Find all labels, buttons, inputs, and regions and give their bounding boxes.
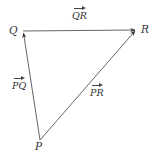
vector-label-qr: QR <box>72 6 87 21</box>
vertex-label-q: Q <box>9 25 18 36</box>
vector-arrow-icon <box>90 83 104 88</box>
vector-pr-arrow <box>40 31 135 140</box>
vector-label-pq: PQ <box>12 76 26 91</box>
vector-label-pq-text: PQ <box>12 80 26 91</box>
vertex-label-p: P <box>35 141 42 152</box>
vector-label-qr-text: QR <box>72 10 87 21</box>
vector-arrow-icon <box>12 76 26 81</box>
vector-qr-arrow <box>23 30 135 31</box>
vector-label-pr-text: PR <box>90 87 104 98</box>
vector-label-pr: PR <box>90 83 104 98</box>
vertex-label-r: R <box>141 24 149 35</box>
vector-arrow-icon <box>72 6 87 11</box>
